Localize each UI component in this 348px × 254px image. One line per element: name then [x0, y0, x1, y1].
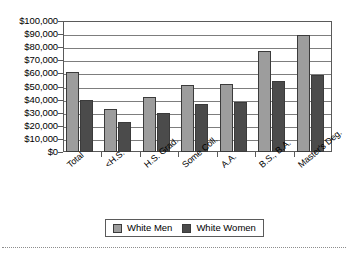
y-tick-label: $10,000 — [0, 134, 58, 144]
y-tick-label: $40,000 — [0, 95, 58, 105]
footer-divider — [2, 247, 346, 248]
y-tick-label: $70,000 — [0, 55, 58, 65]
gridline — [64, 127, 331, 128]
y-tick-label: $50,000 — [0, 82, 58, 92]
gridline — [64, 114, 331, 115]
legend-label: White Women — [196, 223, 255, 233]
y-tick-label: $60,000 — [0, 68, 58, 78]
bar-chart-figure: $100,000$90,000$80,000$70,000$60,000$50,… — [0, 0, 348, 254]
gridline — [64, 35, 331, 36]
legend-label: White Men — [127, 223, 172, 233]
y-tick-label: $100,000 — [0, 16, 58, 26]
gridline — [64, 101, 331, 102]
gridline — [64, 88, 331, 89]
y-tick-label: $80,000 — [0, 42, 58, 52]
legend-swatch-icon — [113, 224, 122, 233]
gridline — [64, 61, 331, 62]
legend-swatch-icon — [182, 224, 191, 233]
gridline — [64, 48, 331, 49]
gridline — [64, 74, 331, 75]
y-tick-label: $20,000 — [0, 121, 58, 131]
y-tick-label: $90,000 — [0, 29, 58, 39]
plot-area — [63, 21, 332, 152]
x-category-label: A.A. — [219, 151, 238, 169]
y-axis: $100,000$90,000$80,000$70,000$60,000$50,… — [0, 14, 58, 159]
gridline — [64, 140, 331, 141]
legend-entry: White Men — [113, 223, 172, 233]
chart-legend: White MenWhite Women — [105, 219, 264, 237]
x-category-label: Total — [65, 150, 86, 170]
y-tick-label: $30,000 — [0, 108, 58, 118]
x-axis-labels: Total<H.S.H.S. Grad.Some Coll.A.A.B.S., … — [0, 152, 348, 214]
legend-entry: White Women — [182, 223, 255, 233]
